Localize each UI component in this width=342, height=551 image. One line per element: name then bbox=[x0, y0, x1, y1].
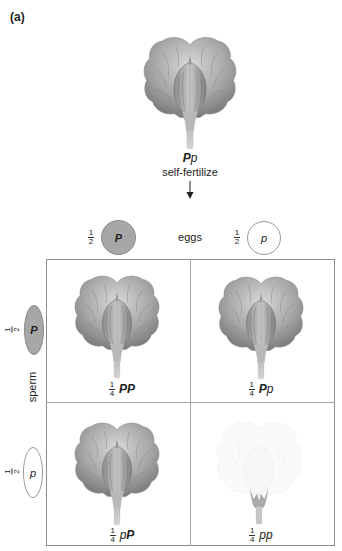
eggs-label: eggs bbox=[170, 231, 210, 243]
sperm-dominant-allele: P bbox=[24, 305, 44, 355]
allele-second: p bbox=[267, 382, 274, 396]
fraction-numerator: 1 bbox=[110, 527, 114, 535]
allele-label: P bbox=[115, 232, 122, 244]
cell-fraction: 14 bbox=[249, 527, 255, 544]
down-arrow-icon bbox=[186, 181, 194, 199]
fraction-numerator: 1 bbox=[250, 527, 254, 535]
fraction-denominator: 2 bbox=[13, 469, 21, 473]
allele-first: P bbox=[119, 382, 127, 396]
allele-label: p bbox=[30, 467, 36, 479]
fraction-denominator: 4 bbox=[249, 390, 253, 398]
fraction-numerator: 1 bbox=[4, 327, 12, 331]
fraction-denominator: 4 bbox=[250, 536, 254, 544]
purple-flower-icon bbox=[71, 272, 163, 380]
fraction-numerator: 1 bbox=[4, 469, 12, 473]
cell-genotype: 14Pp bbox=[231, 381, 291, 398]
egg-dominant-allele: P bbox=[101, 220, 136, 255]
fraction-numerator: 1 bbox=[249, 381, 253, 389]
sperm-dominant-fraction: 1 2 bbox=[4, 327, 21, 333]
fraction-numerator: 1 bbox=[110, 381, 114, 389]
parent-allele-recessive: p bbox=[191, 151, 198, 165]
cell-genotype: 14pp bbox=[231, 527, 291, 544]
fraction-numerator: 1 bbox=[235, 229, 239, 237]
self-fertilize-label: self-fertilize bbox=[140, 166, 240, 178]
allele-second: p bbox=[266, 528, 273, 542]
cell-fraction: 14 bbox=[249, 381, 255, 398]
parent-genotype: Pp bbox=[160, 151, 220, 165]
fraction-denominator: 2 bbox=[89, 238, 93, 246]
cell-genotype: 14PP bbox=[92, 381, 152, 398]
purple-flower-icon bbox=[71, 419, 163, 527]
allele-first: p bbox=[259, 528, 266, 542]
fraction-denominator: 4 bbox=[110, 390, 114, 398]
allele-second: P bbox=[126, 528, 134, 542]
sperm-label: sperm bbox=[26, 367, 38, 407]
egg-recessive-fraction: 1 2 bbox=[234, 229, 240, 246]
sperm-recessive-allele: p bbox=[23, 447, 43, 498]
grid-divider-horizontal bbox=[46, 402, 335, 403]
white-flower-icon bbox=[213, 418, 305, 526]
fraction-denominator: 4 bbox=[110, 536, 114, 544]
allele-label: P bbox=[30, 324, 37, 336]
cell-genotype: 14pP bbox=[92, 527, 152, 544]
panel-label: (a) bbox=[10, 10, 25, 24]
fraction-denominator: 2 bbox=[235, 238, 239, 246]
sperm-recessive-fraction: 1 2 bbox=[4, 469, 21, 475]
parent-allele-dominant: P bbox=[183, 151, 191, 165]
egg-recessive-allele: p bbox=[247, 221, 281, 255]
fraction-denominator: 2 bbox=[13, 327, 21, 331]
allele-first: P bbox=[259, 382, 267, 396]
purple-flower-icon bbox=[215, 273, 307, 381]
egg-dominant-fraction: 1 2 bbox=[88, 229, 94, 246]
cell-fraction: 14 bbox=[110, 527, 116, 544]
parent-flower-icon bbox=[140, 33, 240, 151]
allele-label: p bbox=[261, 232, 267, 244]
fraction-numerator: 1 bbox=[89, 229, 93, 237]
allele-second: P bbox=[127, 382, 135, 396]
cell-fraction: 14 bbox=[109, 381, 115, 398]
